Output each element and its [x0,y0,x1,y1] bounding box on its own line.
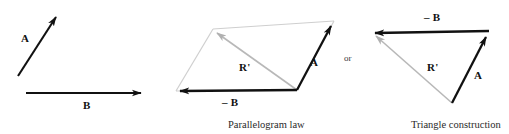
triangle-resultant-label: R' [427,62,438,73]
parallelogram-vector-a-label: A [310,57,318,68]
given-vectors-group [18,17,141,93]
triangle-caption: Triangle construction [411,120,501,131]
parallelogram-side-top [213,21,334,29]
vector-addition-figure: A B A – B R' or – B A R' Parallelogram l… [0,0,509,134]
or-conjunction-text: or [344,54,352,63]
given-vector-b-label: B [83,100,91,111]
given-vector-a-label: A [21,33,29,44]
given-vector-a-arrow [18,17,56,76]
parallelogram-resultant-label: R' [239,62,250,73]
parallelogram-vector-minus-b-label: – B [222,97,238,108]
triangle-vector-a-label: A [474,70,482,81]
triangle-vector-minus-b-arrow [375,31,489,33]
triangle-resultant-arrow [376,36,452,103]
parallelogram-caption: Parallelogram law [228,120,305,131]
triangle-vector-minus-b-label: – B [424,12,440,23]
parallelogram-side-left [176,29,213,91]
parallelogram-vector-minus-b-arrow [180,90,297,91]
parallelogram-resultant-arrow [217,33,297,90]
